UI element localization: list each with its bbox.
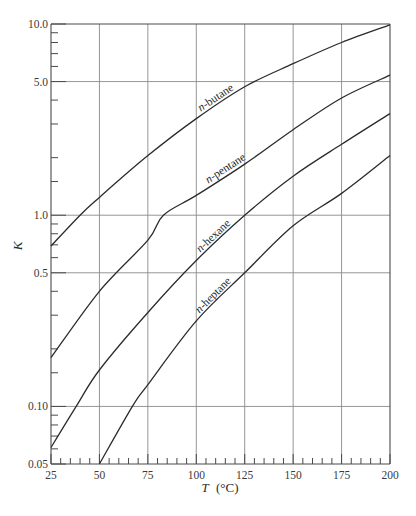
k-value-chart: 2550751001251501752000.050.100.51.05.010… (0, 0, 416, 516)
n-pentane-curve (51, 75, 390, 357)
x-axis-label: T (°C) (201, 480, 238, 495)
y-axis-label: K (10, 240, 25, 251)
x-axis-unit: (°C) (216, 480, 239, 495)
x-tick-label: 125 (236, 469, 254, 481)
n-hexane-label: n-hexane (193, 217, 232, 255)
tick-labels: 2550751001251501752000.050.100.51.05.010… (28, 18, 399, 481)
label-rest: -pentane (208, 151, 248, 183)
label-rest: -hexane (198, 217, 233, 251)
y-tick-label: 0.5 (34, 267, 49, 279)
n-butane-label: n-butane (195, 81, 235, 113)
y-tick-label: 5.0 (34, 76, 49, 88)
x-tick-label: 50 (94, 469, 106, 481)
y-tick-label: 10.0 (28, 18, 48, 30)
x-tick-label: 175 (333, 469, 351, 481)
n-butane-curve (51, 25, 390, 246)
x-tick-label: 150 (285, 469, 303, 481)
y-tick-label: 0.10 (28, 400, 48, 412)
x-axis-variable: T (201, 480, 209, 495)
x-tick-label: 75 (142, 469, 154, 481)
y-tick-label: 0.05 (28, 458, 48, 470)
n-heptane-label: n-heptane (193, 275, 234, 316)
x-tick-label: 200 (381, 469, 399, 481)
x-tick-label: 25 (45, 469, 57, 481)
n-pentane-label: n-pentane (203, 151, 248, 186)
curve-labels: n-butanen-pentanen-hexanen-heptane (193, 81, 248, 316)
label-rest: -heptane (197, 275, 234, 312)
y-tick-label: 1.0 (34, 209, 49, 221)
